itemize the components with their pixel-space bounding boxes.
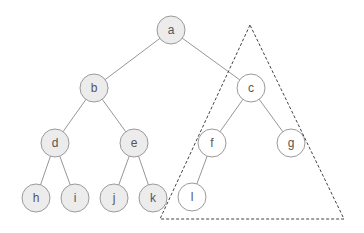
node-j: j <box>100 184 128 212</box>
node-label: h <box>33 191 40 205</box>
node-label: i <box>74 191 77 205</box>
node-b: b <box>80 74 108 102</box>
node-e: e <box>120 129 148 157</box>
tree-diagram: abcdefghijkl <box>0 0 364 233</box>
node-f: f <box>198 129 226 157</box>
node-k: k <box>139 184 167 212</box>
node-label: e <box>131 136 138 150</box>
node-label: k <box>150 191 157 205</box>
node-i: i <box>61 184 89 212</box>
node-g: g <box>277 129 305 157</box>
edges <box>36 30 291 198</box>
node-label: d <box>52 136 59 150</box>
node-label: g <box>288 136 295 150</box>
edge-a-c <box>171 30 251 88</box>
node-label: a <box>168 23 175 37</box>
node-h: h <box>22 184 50 212</box>
node-label: j <box>112 191 116 205</box>
node-a: a <box>157 16 185 44</box>
nodes: abcdefghijkl <box>22 16 305 212</box>
node-d: d <box>41 129 69 157</box>
node-label: l <box>191 190 194 204</box>
node-l: l <box>178 183 206 211</box>
node-label: c <box>248 81 254 95</box>
node-c: c <box>237 74 265 102</box>
node-label: b <box>91 81 98 95</box>
